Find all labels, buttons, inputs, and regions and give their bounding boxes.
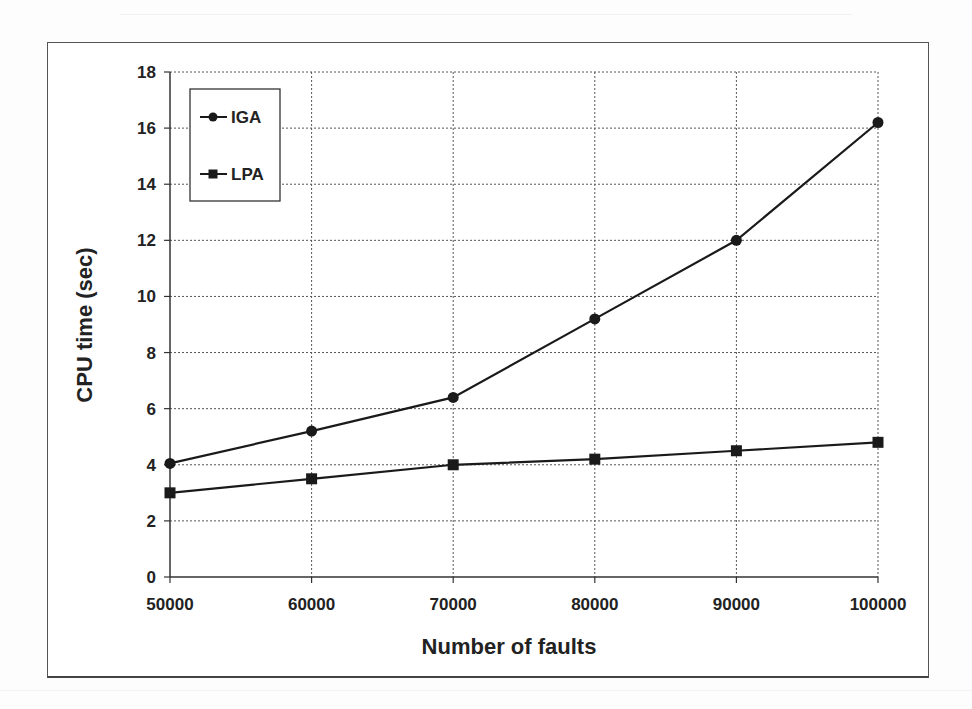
y-tick-label: 12 bbox=[137, 231, 156, 250]
legend-box bbox=[190, 89, 280, 201]
data-point bbox=[731, 235, 742, 246]
x-tick-label: 90000 bbox=[713, 595, 760, 614]
data-point bbox=[448, 459, 459, 470]
svg-text:LPA: LPA bbox=[231, 165, 264, 184]
x-tick-label: 50000 bbox=[146, 595, 193, 614]
x-tick-label: 80000 bbox=[571, 595, 618, 614]
y-tick-label: 16 bbox=[137, 119, 156, 138]
data-point bbox=[165, 458, 176, 469]
x-axis-label: Number of faults bbox=[422, 634, 597, 659]
y-tick-label: 4 bbox=[147, 456, 157, 475]
legend: IGA LPA bbox=[190, 89, 280, 201]
y-tick-label: 10 bbox=[137, 287, 156, 306]
data-point bbox=[873, 437, 884, 448]
circle-marker-icon bbox=[209, 113, 218, 122]
data-point bbox=[873, 117, 884, 128]
x-axis-ticks: 5000060000700008000090000100000 bbox=[146, 595, 906, 614]
data-point bbox=[448, 392, 459, 403]
x-tick-label: 70000 bbox=[430, 595, 477, 614]
y-tick-label: 6 bbox=[147, 400, 156, 419]
y-tick-label: 0 bbox=[147, 568, 156, 587]
y-tick-label: 14 bbox=[137, 175, 156, 194]
line-chart: 024681012141618 500006000070000800009000… bbox=[0, 0, 972, 709]
data-point bbox=[589, 454, 600, 465]
series-lpa bbox=[165, 437, 884, 499]
square-marker-icon bbox=[209, 170, 218, 179]
data-point bbox=[589, 313, 600, 324]
y-axis-ticks: 024681012141618 bbox=[137, 63, 156, 587]
x-tick-label: 100000 bbox=[850, 595, 907, 614]
data-point bbox=[306, 473, 317, 484]
data-point bbox=[165, 487, 176, 498]
y-tick-label: 8 bbox=[147, 344, 156, 363]
y-axis-label: CPU time (sec) bbox=[72, 247, 97, 402]
data-point bbox=[731, 445, 742, 456]
data-point bbox=[306, 426, 317, 437]
y-tick-label: 2 bbox=[147, 512, 156, 531]
x-tick-label: 60000 bbox=[288, 595, 335, 614]
y-tick-label: 18 bbox=[137, 63, 156, 82]
svg-text:IGA: IGA bbox=[231, 108, 261, 127]
